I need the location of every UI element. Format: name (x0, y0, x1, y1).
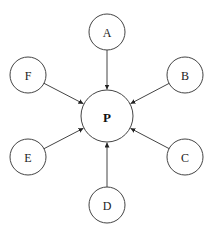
edge-f-to-p-arrow (44, 83, 84, 104)
node-a-label: A (103, 26, 112, 40)
node-c[interactable]: C (167, 139, 203, 175)
node-d-label: D (103, 199, 112, 213)
node-e[interactable]: E (10, 139, 46, 175)
node-e-label: E (24, 151, 31, 165)
node-c-label: C (181, 151, 189, 165)
node-a[interactable]: A (89, 14, 125, 50)
node-d[interactable]: D (89, 187, 125, 223)
edge-b-to-p-arrow (130, 83, 169, 103)
edge-c-to-p-arrow (130, 128, 169, 148)
node-f[interactable]: F (10, 57, 46, 93)
center-node-label: P (103, 110, 111, 125)
diagram-canvas: ABCDEF P (0, 0, 214, 235)
edge-e-to-p-arrow (44, 128, 84, 149)
node-b-label: B (181, 69, 189, 83)
center-node[interactable]: P (81, 90, 133, 142)
node-f-label: F (25, 69, 32, 83)
node-b[interactable]: B (167, 57, 203, 93)
